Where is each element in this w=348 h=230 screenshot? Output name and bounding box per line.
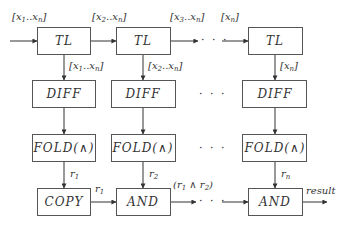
dataflow-diagram: [x1..xn] [x2..xn] · · · [x3..xn] [xn] TL… — [0, 0, 348, 230]
diff-label-2: DIFF — [124, 87, 160, 101]
input-label-col3: [xn] — [221, 11, 239, 24]
and-chain-label: (r1 ∧ r2) — [173, 179, 213, 192]
down-label-col1: [x1..xn] — [69, 60, 104, 73]
fold-label-1: FOLD(∧) — [33, 141, 95, 155]
and-label-2: AND — [126, 195, 159, 209]
fold-label-2: FOLD(∧) — [112, 141, 174, 155]
tl-label-2: TL — [134, 34, 152, 48]
and-label-n: AND — [258, 195, 291, 209]
diff-label-1: DIFF — [45, 87, 81, 101]
copy-to-and-label: r1 — [95, 183, 104, 196]
fold-label-n: FOLD(∧) — [244, 141, 306, 155]
copy-label: COPY — [44, 195, 83, 209]
fold-row-ellipsis: · · · — [199, 142, 226, 155]
tl-label-1: TL — [55, 34, 73, 48]
input-label-col2-out: [x3..xn] — [170, 11, 205, 24]
result-label-coln: rn — [281, 168, 291, 181]
down-label-col2: [x2..xn] — [148, 60, 183, 73]
diff-row-ellipsis: · · · — [199, 88, 226, 101]
down-label-coln: [xn] — [280, 60, 298, 73]
input-label-col2: [x2..xn] — [92, 11, 127, 24]
column-1: TL [x1..xn] DIFF FOLD(∧) r1 COPY — [33, 28, 104, 216]
output-label: result — [306, 185, 336, 196]
column-n: TL [xn] DIFF FOLD(∧) rn AND — [243, 28, 307, 216]
input-label-col1: [x1..xn] — [12, 11, 47, 24]
result-label-col2: r2 — [149, 168, 159, 181]
diff-label-n: DIFF — [256, 87, 292, 101]
tl-label-n: TL — [266, 34, 284, 48]
column-2: TL [x2..xn] DIFF FOLD(∧) r2 AND — [112, 28, 183, 216]
result-label-col1: r1 — [70, 168, 79, 181]
